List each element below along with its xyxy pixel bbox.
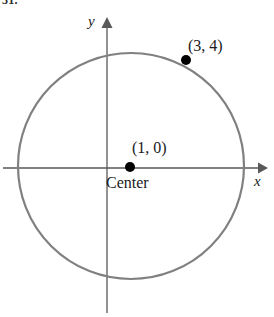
x-axis <box>3 163 268 174</box>
center-point-dot <box>125 162 135 172</box>
center-point-label: (1, 0) <box>132 140 167 156</box>
circle-figure: 31. y x (3, 4) (1, 0) Center <box>0 0 274 317</box>
arrow-right-icon <box>258 163 268 174</box>
center-point-caption: Center <box>106 175 149 191</box>
arrow-up-icon <box>102 17 113 28</box>
circle-point-label: (3, 4) <box>188 38 223 54</box>
x-axis-label: x <box>254 174 261 189</box>
y-axis <box>102 17 113 313</box>
circle-point-dot <box>181 55 191 65</box>
y-axis-label: y <box>88 14 95 29</box>
figure-canvas <box>0 0 274 317</box>
